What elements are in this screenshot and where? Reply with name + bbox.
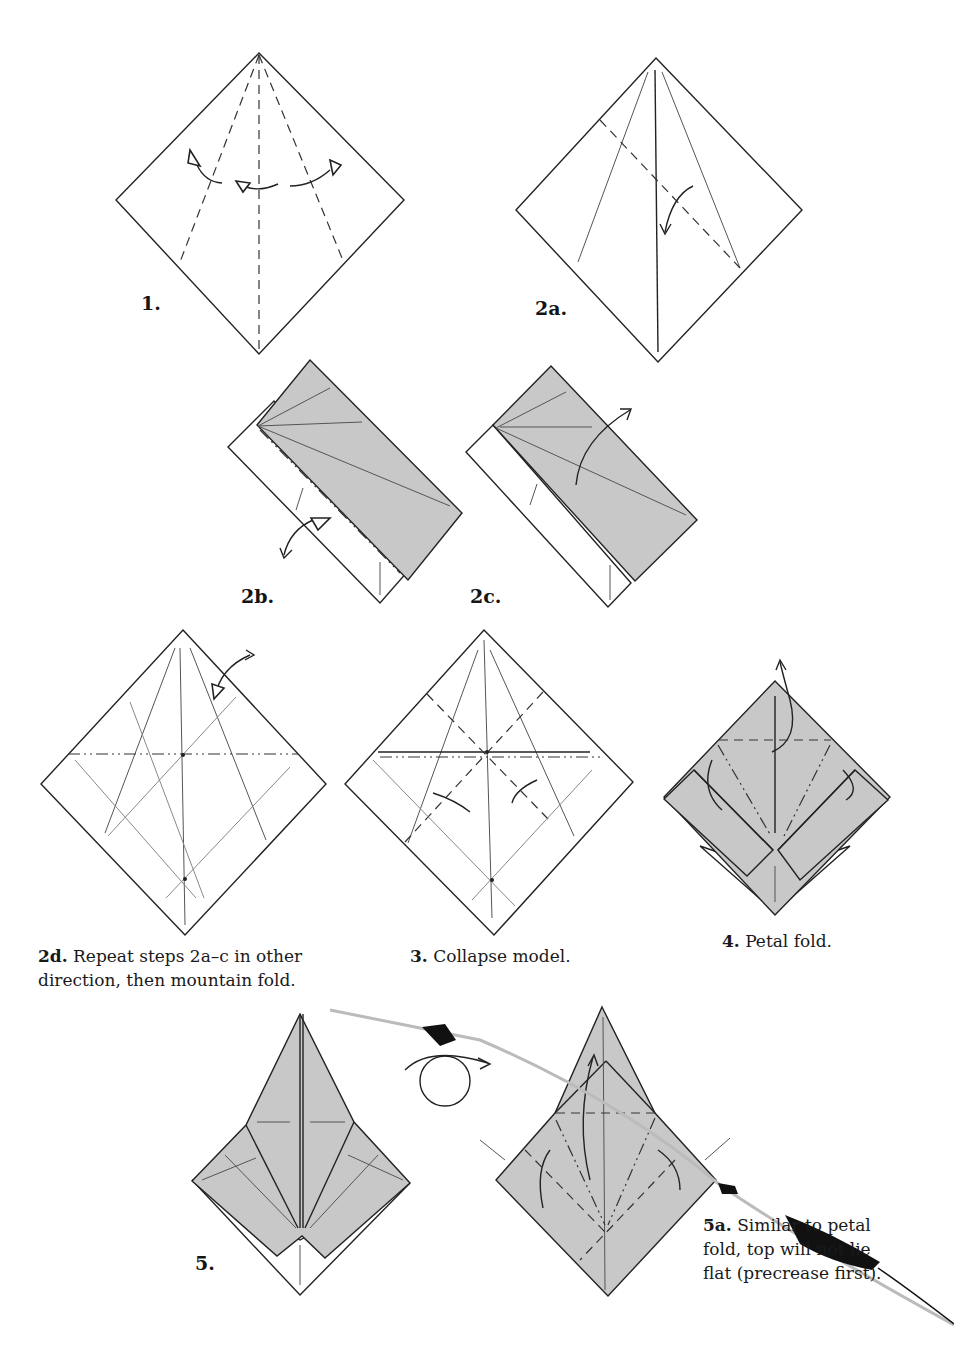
square-paper [41,630,326,935]
step-label-5a: 5a. [703,1215,732,1235]
diagram-step-5a [480,1007,730,1296]
step-label-2b: 2b. [241,585,274,607]
step-label-1: 1. [141,292,161,314]
turn-over-icon [405,1055,490,1106]
diagram-step-2b [228,360,462,603]
step-label-4: 4. [722,931,740,951]
kite-shape [496,1007,716,1296]
diagram-step-2c [466,366,697,607]
step-caption-3: 3. Collapse model. [410,944,610,968]
step-caption-2d: 2d. Repeat steps 2a–c in other direction… [38,944,348,992]
diagram-step-4 [664,660,890,915]
step-label-3: 3. [410,946,428,966]
square-paper [345,630,633,935]
step-text-4: Petal fold. [745,931,832,951]
step-caption-4: 4. Petal fold. [722,929,922,953]
step-caption-5a: 5a. Similar to petal fold, top will not … [703,1213,903,1285]
step-label-5: 5. [195,1252,215,1274]
step-text-3: Collapse model. [433,946,570,966]
diagram-step-5 [192,1014,410,1295]
kite-shape [192,1014,410,1258]
step-label-2d: 2d. [38,946,68,966]
step-text-2d: Repeat steps 2a–c in other direction, th… [38,946,302,990]
diagram-step-2d [41,630,326,935]
step-label-2a: 2a. [535,297,567,319]
step-label-2c: 2c. [470,585,501,607]
diagram-step-3 [345,630,633,935]
